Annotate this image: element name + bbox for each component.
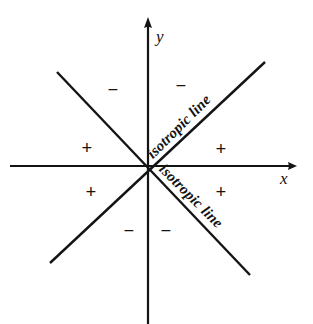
sign-left-upper-plus: +	[79, 138, 95, 157]
figure-canvas	[0, 0, 313, 324]
isotropic-lines-figure: y x isotropic line isotropic line − − + …	[0, 0, 313, 324]
sign-upper-right-minus: −	[173, 76, 189, 95]
sign-lower-left-minus: −	[121, 221, 137, 240]
x-axis-label: x	[280, 170, 288, 187]
sign-right-lower-plus: +	[213, 182, 229, 201]
sign-right-upper-plus: +	[213, 139, 229, 158]
sign-left-lower-plus: +	[83, 182, 99, 201]
sign-lower-right-minus: −	[158, 221, 174, 240]
y-axis-label: y	[156, 28, 164, 45]
sign-upper-left-minus: −	[105, 80, 121, 99]
